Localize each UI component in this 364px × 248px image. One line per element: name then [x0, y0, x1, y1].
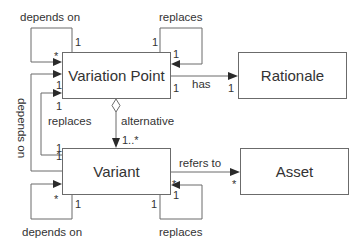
variant-depends-on-mult-target: *	[54, 193, 59, 205]
vp-replaces-label: replaces	[159, 11, 203, 23]
arrowhead-icon	[230, 168, 240, 176]
vp-alternative-mult-target: 1..*	[122, 134, 139, 146]
aggregation-diamond-icon	[112, 99, 120, 112]
variant-label: Variant	[93, 163, 140, 180]
variant-replaces-vp-mult-source: 1	[56, 100, 62, 112]
arrowhead-icon	[53, 70, 62, 78]
vp-replaces-mult-target: 1	[173, 48, 179, 60]
refers-to-mult-source: *	[172, 178, 177, 190]
variant-replaces-vp-mult-target: 1	[56, 79, 62, 91]
vp-has-label: has	[192, 78, 211, 90]
variation-point-label: Variation Point	[68, 67, 165, 84]
class-rationale[interactable]: Rationale	[239, 53, 347, 99]
relation-vp-has-rationale: has 1 1	[170, 72, 238, 94]
vp-depends-on-mult-source: 1	[75, 36, 81, 48]
variant-depends-on-label: depends on	[22, 226, 82, 238]
vp-depends-on-mult-target: *	[54, 50, 59, 62]
relation-vp-alternative: alternative 1..*	[112, 99, 174, 148]
variant-replaces-mult-source: 1	[151, 198, 157, 210]
arrowhead-icon	[112, 138, 120, 148]
variant-depends-on-vp-label: depends on	[16, 98, 28, 158]
variant-depends-on-vp-mult-target: 1	[56, 142, 62, 154]
vp-has-mult-target: 1	[228, 82, 234, 94]
refers-to-mult-target: *	[232, 178, 237, 190]
variant-depends-on-mult-source: 1	[75, 198, 81, 210]
variant-replaces-mult-target: 1	[173, 189, 179, 201]
refers-to-label: refers to	[179, 157, 221, 169]
uml-diagram: depends on 1 * replaces 1 1 has 1 1 alte…	[0, 0, 364, 248]
arrowhead-icon	[53, 180, 62, 188]
asset-label: Asset	[276, 163, 314, 180]
arrowhead-icon	[228, 72, 238, 80]
vp-depends-on-label: depends on	[20, 11, 80, 23]
variant-replaces-vp-label: replaces	[48, 115, 92, 127]
rationale-label: Rationale	[261, 67, 324, 84]
class-variation-point[interactable]: Variation Point	[63, 53, 171, 99]
arrowhead-icon	[171, 60, 180, 68]
vp-alternative-label: alternative	[121, 115, 174, 127]
class-variant[interactable]: Variant	[63, 149, 171, 195]
vp-has-mult-source: 1	[173, 82, 179, 94]
vp-replaces-mult-source: 1	[152, 36, 158, 48]
variant-replaces-label: replaces	[159, 226, 203, 238]
class-asset[interactable]: Asset	[241, 149, 349, 195]
